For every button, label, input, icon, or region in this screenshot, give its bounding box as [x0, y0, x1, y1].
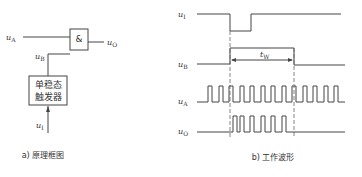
waveform-ub: [197, 48, 345, 65]
output-label: uO: [107, 38, 117, 48]
input-b-wire: [48, 54, 70, 76]
signal-label-ua: uA: [178, 97, 188, 107]
caption-a: a) 原理框图: [22, 150, 65, 160]
signal-label-ui: uI: [178, 10, 186, 20]
signal-label-ub: uB: [178, 60, 188, 70]
waveform-ua: [197, 86, 345, 102]
diagram-canvas: & uA uO uB 单稳态 触发器 uI a) 原理框图 tW uI uB u…: [0, 0, 362, 177]
trigger-input-label: uI: [36, 121, 44, 131]
arrow-up-icon: [46, 106, 50, 112]
waveform-uo: [197, 116, 345, 132]
waveform-ui: [197, 14, 341, 31]
tw-label: tW: [260, 50, 270, 60]
gate-symbol: &: [75, 34, 82, 44]
arrow-left-icon: [231, 58, 236, 62]
box-line2: 触发器: [35, 91, 62, 102]
caption-b: b) 工作波形: [252, 152, 295, 162]
input-b-label: uB: [35, 52, 45, 62]
arrow-right-icon: [288, 58, 293, 62]
box-line1: 单稳态: [35, 79, 62, 90]
input-a-label: uA: [6, 33, 16, 43]
signal-label-uo: uO: [178, 127, 188, 137]
